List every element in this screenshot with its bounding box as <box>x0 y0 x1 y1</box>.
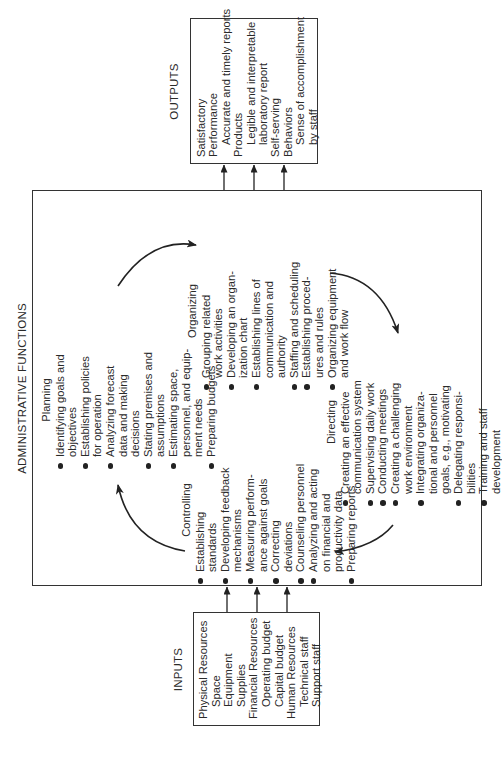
cycle-arrows <box>118 244 398 552</box>
input-arrows <box>227 587 287 612</box>
output-arrows <box>224 165 284 190</box>
